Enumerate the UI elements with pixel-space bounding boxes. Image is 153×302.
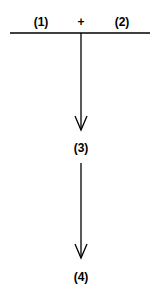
label-1: (1) — [34, 15, 49, 29]
label-4: (4) — [74, 270, 89, 284]
arrow-3-to-4 — [75, 163, 87, 258]
label-3: (3) — [74, 141, 89, 155]
label-2: (2) — [115, 15, 130, 29]
plus-operator: + — [77, 15, 84, 29]
arrow-1-to-3 — [75, 33, 87, 130]
